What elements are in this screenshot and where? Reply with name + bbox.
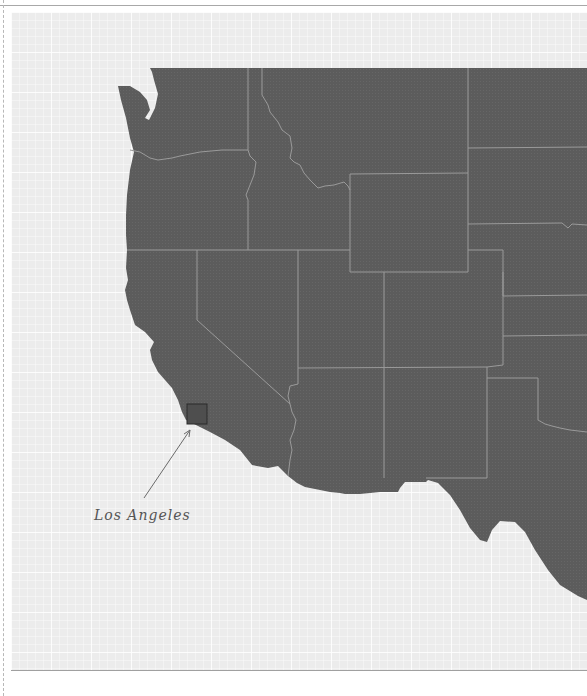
bottom-frame-rule	[11, 670, 587, 671]
arrowhead-icon	[184, 430, 190, 437]
annotation-arrow	[144, 430, 190, 498]
los-angeles-label: Los Angeles	[94, 507, 191, 523]
los-angeles-county-outline[interactable]	[187, 404, 207, 424]
western-us-map	[0, 0, 587, 696]
